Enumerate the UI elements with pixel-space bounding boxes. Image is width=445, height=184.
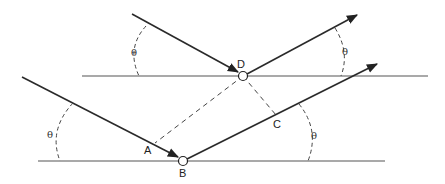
point-label-a: A — [144, 144, 152, 156]
point-b-marker — [179, 157, 188, 166]
theta-label-bottom-incident: θ — [47, 129, 53, 140]
lower-reflected-ray — [187, 64, 377, 159]
theta-label-top-incident: θ — [131, 47, 137, 58]
lower-incident-ray — [22, 77, 178, 157]
angle-arc-bottom-incident — [56, 103, 73, 161]
theta-label-bottom-reflected: θ — [311, 130, 317, 141]
point-label-c: C — [273, 118, 281, 130]
dashed-line-d-c — [243, 76, 276, 115]
dashed-line-d-a — [155, 76, 243, 143]
point-label-b: B — [179, 167, 186, 179]
point-d-marker — [239, 72, 248, 81]
theta-label-top-reflected: θ — [342, 46, 348, 57]
bragg-diagram: θ θ θ θ D B A C — [0, 0, 445, 184]
upper-reflected-ray — [247, 15, 357, 74]
upper-incident-ray — [132, 14, 238, 72]
point-label-d: D — [237, 58, 245, 70]
